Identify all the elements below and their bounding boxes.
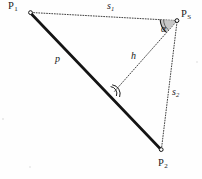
segment-label-s2: s2 (172, 87, 179, 97)
point-label-ps: PS (181, 9, 191, 20)
segment-label-s1-sub: 1 (111, 5, 114, 12)
segment-p-line (31, 13, 161, 149)
angle-label-alpha-text: α (161, 24, 166, 34)
segment-s1-line (31, 13, 176, 21)
segment-h-line (114, 23, 176, 93)
segment-label-h: h (131, 51, 136, 61)
point-label-p1: P1 (8, 1, 18, 12)
angle-label-alpha: α (161, 25, 166, 35)
point-label-ps-sub: S (187, 13, 191, 21)
point-label-p2-sub: 2 (164, 162, 168, 170)
geometry-figure: P1 PS P2 p s1 s2 h α (0, 0, 202, 179)
vertex-marker-p1 (29, 11, 33, 15)
point-label-p2: P2 (158, 158, 168, 169)
vertex-marker-p2 (159, 148, 163, 152)
vertex-marker-ps (175, 19, 179, 23)
right-angle-marker-inner (111, 87, 117, 96)
segment-label-s2-sub: 2 (176, 91, 179, 98)
segment-label-h-text: h (131, 50, 136, 61)
segment-label-s1: s1 (107, 1, 114, 11)
segment-label-p-text: p (55, 53, 60, 64)
segment-label-p: p (55, 54, 60, 64)
point-label-p1-sub: 1 (14, 5, 18, 13)
